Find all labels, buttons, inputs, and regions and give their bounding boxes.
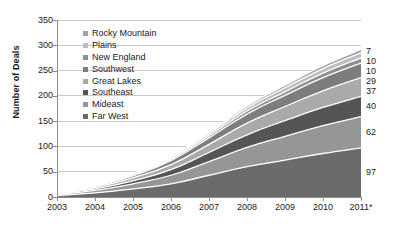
y-axis-tick-label: 300 (1, 41, 53, 50)
x-axis-tick-label: 2003 (47, 203, 67, 212)
stacked-area-chart: Number of Deals 350300250200150100500 71… (0, 0, 393, 232)
y-axis-tick-label: 150 (1, 117, 53, 126)
x-axis-tick-label: 2007 (199, 203, 219, 212)
y-axis-tick-mark (53, 71, 57, 72)
x-axis-tick-mark (95, 197, 96, 201)
y-axis-tick-mark (53, 146, 57, 147)
legend-swatch-icon (83, 79, 88, 84)
x-axis-tick-label: 2005 (123, 203, 143, 212)
x-axis-tick-mark (323, 197, 324, 201)
legend-item-label: Mideast (92, 100, 124, 109)
y-axis-tick-mark (53, 45, 57, 46)
legend-item[interactable]: New England (83, 52, 179, 64)
legend-swatch-icon (83, 31, 88, 36)
legend-item[interactable]: Plains (83, 40, 179, 52)
series-end-label: 97 (366, 168, 376, 177)
y-axis-tick-mark (53, 172, 57, 173)
series-end-label: 29 (366, 77, 376, 86)
x-axis-tick-label: 2010 (313, 203, 333, 212)
x-axis-tick-mark (171, 197, 172, 201)
x-axis-tick-mark (285, 197, 286, 201)
x-axis-tick-label: 2011* (350, 203, 373, 212)
x-axis-tick-label: 2009 (275, 203, 295, 212)
legend-item[interactable]: Rocky Mountain (83, 28, 179, 40)
legend-swatch-icon (83, 114, 88, 119)
x-axis-tick-mark (247, 197, 248, 201)
series-end-label: 62 (366, 128, 376, 137)
y-axis-tick-label: 0 (1, 193, 53, 202)
legend-item-label: Far West (92, 112, 128, 121)
legend-swatch-icon (83, 67, 88, 72)
y-axis-tick-label: 350 (1, 16, 53, 25)
legend-item-label: Southwest (92, 65, 134, 74)
series-end-label: 10 (366, 67, 376, 76)
x-axis-tick-mark (361, 197, 362, 201)
series-end-label: 40 (366, 102, 376, 111)
y-axis-line (57, 20, 58, 198)
legend: Rocky MountainPlainsNew EnglandSouthwest… (83, 28, 179, 122)
legend-item-label: Plains (92, 41, 117, 50)
y-axis-tick-labels: 350300250200150100500 (0, 0, 53, 232)
y-axis-tick-label: 100 (1, 142, 53, 151)
x-axis-tick-label: 2006 (161, 203, 181, 212)
x-axis-tick-mark (209, 197, 210, 201)
legend-swatch-icon (83, 90, 88, 95)
legend-item[interactable]: Southeast (83, 87, 179, 99)
series-end-label: 10 (366, 57, 376, 66)
legend-item-label: Rocky Mountain (92, 29, 157, 38)
legend-swatch-icon (83, 55, 88, 60)
y-axis-tick-mark (53, 20, 57, 21)
x-axis-tick-mark (57, 197, 58, 201)
series-end-label: 37 (366, 87, 376, 96)
y-axis-tick-label: 50 (1, 167, 53, 176)
legend-item-label: New England (92, 53, 146, 62)
y-axis-tick-mark (53, 96, 57, 97)
legend-swatch-icon (83, 102, 88, 107)
x-axis-tick-label: 2008 (237, 203, 257, 212)
y-axis-tick-label: 250 (1, 66, 53, 75)
series-end-label: 7 (366, 47, 371, 56)
x-axis-tick-label: 2004 (85, 203, 105, 212)
legend-item[interactable]: Southwest (83, 63, 179, 75)
legend-item[interactable]: Great Lakes (83, 75, 179, 87)
legend-item[interactable]: Mideast (83, 99, 179, 111)
x-axis-tick-mark (133, 197, 134, 201)
y-axis-tick-mark (53, 121, 57, 122)
legend-item-label: Southeast (92, 88, 133, 97)
y-axis-tick-label: 200 (1, 91, 53, 100)
legend-swatch-icon (83, 43, 88, 48)
legend-item[interactable]: Far West (83, 111, 179, 123)
legend-item-label: Great Lakes (92, 77, 141, 86)
